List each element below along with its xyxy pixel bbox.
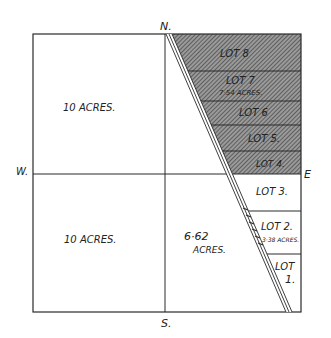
lot-8-label: LOT 8 <box>220 48 249 59</box>
lot-1-label: LOT <box>275 261 295 272</box>
lot-2-label: LOT 2. <box>261 221 293 232</box>
compass-west: W. <box>16 166 28 177</box>
parcel-nw-label: 10 ACRES. <box>63 102 116 113</box>
survey-plat: N. S. E W. 10 ACRES. 10 ACRES. 6·62 ACRE… <box>0 0 331 338</box>
parcel-se-acres: 6·62 <box>184 230 209 243</box>
compass-north: N. <box>160 20 172 33</box>
compass-east: E <box>304 168 311 181</box>
lot-3-label: LOT 3. <box>256 186 288 197</box>
lot-1-number: 1. <box>285 273 296 286</box>
lot-7-acres: 7·54 ACRES. <box>219 89 262 97</box>
lot-2-acres: 3·38 ACRES. <box>262 236 299 243</box>
lot-7-label: LOT 7 <box>226 75 255 86</box>
plat-drawing: N. S. E W. 10 ACRES. 10 ACRES. 6·62 ACRE… <box>0 0 331 338</box>
parcel-se-unit: ACRES. <box>192 245 226 255</box>
parcel-sw-label: 10 ACRES. <box>64 234 117 245</box>
lot-6-label: LOT 6 <box>239 107 268 118</box>
lot-4-label: LOT 4. <box>256 159 285 169</box>
compass-south: S. <box>161 317 171 330</box>
lot-5-label: LOT 5. <box>248 133 280 144</box>
